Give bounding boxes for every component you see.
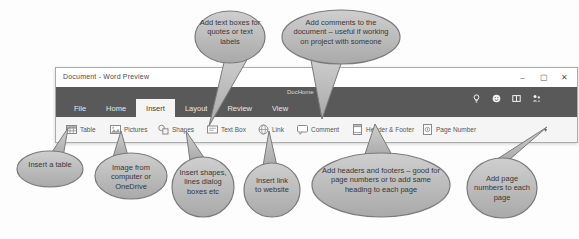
close-button[interactable]: ✕ <box>554 68 575 87</box>
ribbon-button-label: Text Box <box>221 126 246 133</box>
ribbon-button-label: Pictures <box>124 126 147 133</box>
ribbon-button-label: Header & Footer <box>366 126 414 133</box>
ribbon-button-label: Comment <box>311 126 339 133</box>
callout-link <box>244 131 300 217</box>
page-number-icon <box>422 124 433 135</box>
screenshot-stage: Document - Word Preview – ▢ ✕ DocHome <box>0 0 579 239</box>
ribbon-button-link[interactable]: Link <box>258 117 284 142</box>
ribbon-button-label: Page Number <box>436 126 476 133</box>
callout-shapes <box>172 131 234 217</box>
ribbon-button-table[interactable]: Table <box>66 117 96 142</box>
title-bar: Document - Word Preview – ▢ ✕ <box>56 68 577 87</box>
table-icon <box>66 124 77 135</box>
ribbon-button-header-footer[interactable]: Header & Footer <box>352 117 414 142</box>
callout-pictures-label: Image from computer or OneDrive <box>99 163 163 191</box>
ribbon-tabs: File Home Insert Layout Review View <box>64 99 298 117</box>
tab-insert[interactable]: Insert <box>136 99 175 117</box>
minimize-button[interactable]: – <box>512 68 533 87</box>
comment-icon <box>297 124 308 135</box>
callout-bubble <box>244 163 300 217</box>
tab-view[interactable]: View <box>262 99 298 117</box>
ribbon-button-pictures[interactable]: Pictures <box>110 117 147 142</box>
callout-table-label: Insert a table <box>28 160 72 169</box>
account-name[interactable]: DocHome <box>287 89 314 95</box>
callout-bubble <box>312 153 450 217</box>
ribbon-overflow-chevron-icon[interactable]: ▾ <box>544 117 547 142</box>
share-people-icon[interactable] <box>532 94 541 103</box>
header-footer-icon <box>352 124 363 135</box>
window-title: Document - Word Preview <box>63 73 149 80</box>
callout-bubble <box>95 153 167 199</box>
callout-link-label: Insert link to website <box>252 176 292 195</box>
lightbulb-icon[interactable] <box>472 94 481 103</box>
ribbon-button-comment[interactable]: Comment <box>297 117 339 142</box>
callout-comments-label: Add comments to the document – useful if… <box>290 18 392 46</box>
tab-layout[interactable]: Layout <box>175 99 218 117</box>
ribbon-tab-band: DocHome <box>56 87 577 117</box>
callout-shapes-label: Insert shapes, lines dialog boxes etc <box>175 168 231 196</box>
title-bar-right-icons <box>472 94 541 103</box>
text-box-icon <box>207 124 218 135</box>
callout-header-footer-label: Add headers and footers – good for page … <box>320 166 442 194</box>
ribbon-button-label: Link <box>272 126 284 133</box>
pictures-icon <box>110 124 121 135</box>
ribbon-button-shapes[interactable]: Shapes <box>158 117 194 142</box>
callout-bubble <box>17 151 83 187</box>
ribbon-button-page-number[interactable]: Page Number <box>422 117 476 142</box>
link-icon <box>258 124 269 135</box>
callout-bubble <box>282 10 400 64</box>
window-controls: – ▢ ✕ <box>512 68 575 87</box>
word-preview-window: Document - Word Preview – ▢ ✕ DocHome <box>55 67 578 143</box>
callout-bubble <box>172 157 234 217</box>
maximize-button[interactable]: ▢ <box>533 68 554 87</box>
callout-page-number-label: Add page numbers to each page <box>472 174 532 202</box>
tab-review[interactable]: Review <box>217 99 262 117</box>
ribbon-button-label: Table <box>80 126 96 133</box>
tab-file[interactable]: File <box>64 99 96 117</box>
shapes-icon <box>158 124 169 135</box>
book-icon[interactable] <box>512 94 521 103</box>
callout-bubble <box>467 158 537 218</box>
tab-home[interactable]: Home <box>96 99 136 117</box>
callout-bubble <box>195 11 265 63</box>
ribbon-button-text-box[interactable]: Text Box <box>207 117 246 142</box>
ribbon-button-label: Shapes <box>172 126 194 133</box>
ribbon-buttons-row: Table Pictures Shapes <box>56 117 577 142</box>
smiley-icon[interactable] <box>492 94 501 103</box>
callout-text-box-label: Add text boxes for quotes or text labels <box>199 18 261 46</box>
